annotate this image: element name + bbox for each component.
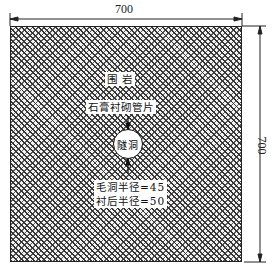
lined-radius-label: 衬后半径=50: [94, 194, 167, 208]
excavation-radius-label: 毛洞半径=45: [94, 180, 167, 194]
lining-segment-label: 石膏衬砌管片: [86, 100, 156, 114]
surrounding-rock-label: 围 岩: [105, 72, 135, 86]
tunnel-circle: 隧洞: [113, 129, 143, 159]
tunnel-label: 隧洞: [117, 137, 139, 152]
